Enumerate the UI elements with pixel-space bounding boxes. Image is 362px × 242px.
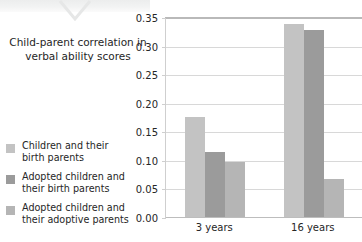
legend-swatch-icon (6, 175, 15, 184)
y-axis-tick-label: 0.20 (124, 98, 158, 109)
bar (324, 179, 344, 217)
y-axis-tick-mark (162, 75, 166, 76)
y-axis-tick-label: 0.00 (124, 213, 158, 224)
y-axis-tick-mark (162, 161, 166, 162)
bar (205, 152, 225, 217)
x-axis-tick-label: 3 years (196, 222, 233, 233)
gridline (166, 75, 362, 76)
plot-area (165, 18, 362, 218)
y-axis-tick-mark (162, 189, 166, 190)
y-axis-tick-mark (162, 18, 166, 19)
legend-swatch-icon (6, 144, 15, 153)
y-axis-tick-label: 0.30 (124, 41, 158, 52)
chart-plot-region: 0.350.300.250.200.150.100.050.00 3 years… (126, 0, 362, 242)
bar (304, 30, 324, 217)
y-axis-tick-mark (162, 132, 166, 133)
y-axis-tick-label: 0.05 (124, 184, 158, 195)
y-axis-tick-label: 0.15 (124, 127, 158, 138)
y-axis-tick-label: 0.35 (124, 13, 158, 24)
legend-swatch-icon (6, 206, 15, 215)
y-axis-tick-label: 0.10 (124, 155, 158, 166)
gridline (166, 47, 362, 48)
y-axis-tick-mark (162, 47, 166, 48)
y-axis-tick-label: 0.25 (124, 70, 158, 81)
bar (225, 162, 245, 217)
bar (284, 24, 304, 217)
bar (185, 117, 205, 217)
y-axis-tick-mark (162, 218, 166, 219)
x-axis-baseline (166, 217, 362, 218)
y-axis-tick-mark (162, 104, 166, 105)
gridline (166, 104, 362, 105)
x-axis-tick-label: 16 years (291, 222, 334, 233)
chart-figure: Child-parent correlation in verbal abili… (0, 0, 362, 242)
